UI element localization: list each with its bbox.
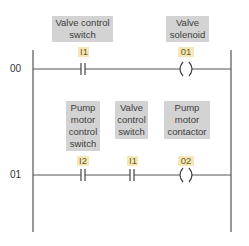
- element-address: 02: [178, 156, 194, 166]
- coil-icon: [180, 168, 192, 182]
- element-description: Valve control switch: [52, 16, 113, 42]
- element-address: I2: [77, 156, 89, 166]
- rung-01-wiring: [33, 168, 231, 182]
- rung-number: 00: [10, 63, 21, 75]
- element-description: Pump motor control switch: [66, 101, 100, 151]
- rung-00-wiring: [33, 62, 231, 76]
- contact-no-icon: [130, 169, 134, 181]
- contact-no-icon: [81, 63, 85, 75]
- rung-number: 01: [10, 169, 21, 181]
- element-address: 01: [178, 47, 194, 57]
- coil-icon: [180, 62, 192, 76]
- element-description: Valve solenoid: [166, 16, 209, 42]
- element-description: Pump motor contactor: [164, 101, 210, 139]
- element-address: I1: [78, 47, 89, 57]
- ladder-diagram: 00 01 Valve control switch I1 Valve sole…: [0, 0, 249, 246]
- element-description: Valve control switch: [115, 101, 148, 139]
- element-address: I1: [127, 156, 138, 166]
- contact-no-icon: [81, 169, 85, 181]
